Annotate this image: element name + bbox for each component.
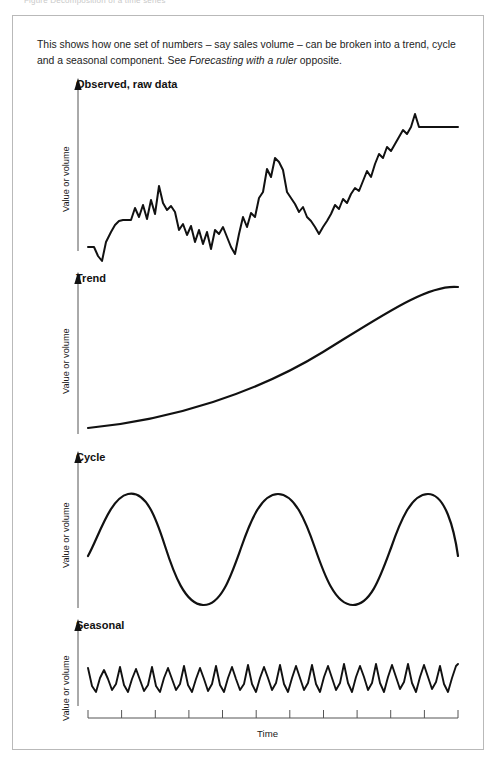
panel-stack [13, 16, 485, 751]
series-cycle [88, 494, 458, 605]
y-axis-trend [74, 272, 81, 434]
series-seasonal [88, 664, 458, 692]
decomposition-plot [13, 16, 485, 751]
x-axis-ticks [88, 710, 458, 718]
series-trend [88, 287, 458, 428]
x-axis-time [88, 710, 458, 718]
figure-frame: This shows how one set of numbers – say … [12, 15, 484, 750]
clipped-caption-fragment: Figure Decomposition of a time series [24, 0, 464, 8]
series-observed [88, 114, 458, 261]
y-axis-cycle [74, 451, 81, 608]
y-axis-observed [74, 78, 81, 251]
y-axis-seasonal [74, 619, 81, 706]
